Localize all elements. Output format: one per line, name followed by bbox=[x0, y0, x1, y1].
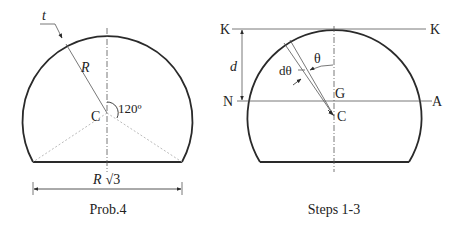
center-label: C bbox=[337, 109, 346, 124]
figure-steps: K K d N A G C θ dθ Steps 1-3 bbox=[220, 22, 443, 217]
dotted-radius-right bbox=[107, 113, 182, 162]
radius-line bbox=[66, 44, 107, 113]
element-line-2 bbox=[290, 40, 334, 116]
dtheta-arrow bbox=[293, 79, 301, 85]
g-label: G bbox=[335, 86, 345, 101]
distance-label: d bbox=[230, 59, 238, 74]
angle-arc bbox=[107, 102, 118, 118]
k-left-label: K bbox=[220, 22, 230, 37]
theta-label: θ bbox=[314, 51, 321, 66]
angle-label: 120º bbox=[118, 101, 142, 116]
n-label: N bbox=[223, 94, 233, 109]
width-label-sqrt: √3 bbox=[106, 172, 121, 187]
figure-caption: Steps 1-3 bbox=[308, 202, 361, 217]
diagram-canvas: t R C 120º R√3 Prob.4 K K d N A G C bbox=[0, 0, 463, 234]
a-label: A bbox=[432, 94, 443, 109]
thickness-label: t bbox=[42, 8, 47, 23]
dtheta-label: dθ bbox=[279, 63, 292, 78]
thickness-leader bbox=[40, 24, 62, 38]
width-label-r: R bbox=[92, 172, 102, 187]
width-label: R√3 bbox=[92, 172, 120, 187]
center-label: C bbox=[91, 109, 100, 124]
figure-prob4: t R C 120º R√3 Prob.4 bbox=[22, 8, 192, 217]
k-right-label: K bbox=[430, 22, 440, 37]
element-line-1 bbox=[284, 43, 334, 116]
circular-segment-outline bbox=[22, 36, 192, 162]
figure-caption: Prob.4 bbox=[90, 202, 127, 217]
radius-label: R bbox=[80, 60, 90, 75]
